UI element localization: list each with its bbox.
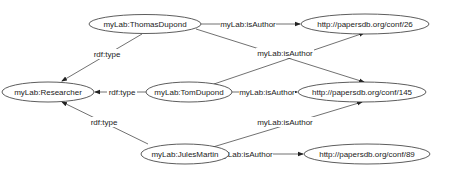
edge-thomas-isauthor-conf26: myLab:isAuthor bbox=[201, 19, 300, 29]
edge-tom-isauthor-conf145: myLab:isAuthor bbox=[232, 87, 297, 97]
edge-jules-type-researcher: rdf:type bbox=[62, 102, 148, 144]
node-tom-dupond: myLab:TomDupond bbox=[146, 82, 232, 102]
node-label: myLab:JulesMartin bbox=[151, 150, 218, 159]
edge-label: myLab:isAuthor bbox=[239, 88, 295, 97]
edge-jules-isauthor-conf145: myLab:isAuthor bbox=[213, 102, 362, 147]
rdf-graph-diagram: rdf:type rdf:type rdf:type myLab:isAutho… bbox=[0, 0, 449, 171]
edge-thomas-type-researcher: rdf:type bbox=[62, 34, 142, 81]
node-thomas-dupond: myLab:ThomasDupond bbox=[89, 15, 201, 34]
edge-jules-isauthor-conf89: myLab:isAuthor bbox=[217, 149, 303, 159]
node-label: http://papersdb.org/conf/89 bbox=[319, 150, 415, 159]
node-conf-89: http://papersdb.org/conf/89 bbox=[304, 144, 430, 164]
node-label: http://papersdb.org/conf/145 bbox=[312, 88, 413, 97]
node-conf-26: http://papersdb.org/conf/26 bbox=[301, 14, 429, 34]
edge-label: myLab:isAuthor bbox=[257, 49, 313, 58]
node-label: http://papersdb.org/conf/26 bbox=[317, 20, 413, 29]
edge-label: rdf:type bbox=[109, 88, 136, 97]
node-conf-145: http://papersdb.org/conf/145 bbox=[298, 82, 426, 102]
node-label: myLab:Researcher bbox=[14, 88, 82, 97]
edge-tom-isauthor-conf26: myLab:isAuthor bbox=[214, 33, 364, 84]
node-jules-martin: myLab:JulesMartin bbox=[141, 144, 229, 164]
edge-label: rdf:type bbox=[91, 118, 118, 127]
node-label: myLab:ThomasDupond bbox=[103, 20, 186, 29]
edge-tom-type-researcher: rdf:type bbox=[95, 87, 146, 97]
node-researcher: myLab:Researcher bbox=[2, 82, 94, 102]
node-label: myLab:TomDupond bbox=[154, 88, 223, 97]
edge-label: rdf:type bbox=[94, 50, 121, 59]
edge-label: myLab:isAuthor bbox=[220, 20, 276, 29]
edge-label: myLab:isAuthor bbox=[257, 118, 313, 127]
